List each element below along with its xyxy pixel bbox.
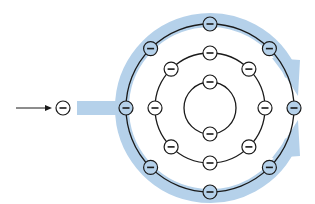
electron-outer-0 [287,101,301,115]
atom-diagram [0,0,315,204]
electron-outer-6 [203,185,217,199]
electron-outer-2 [203,17,217,31]
electron-outer-4 [119,101,133,115]
electron-outer-3 [144,42,158,56]
electron-middle-0 [258,101,272,115]
electron-outer-7 [262,160,276,174]
electrons [119,17,301,199]
flow-arrowhead-upper-icon [272,58,300,96]
electron-middle-3 [164,62,178,76]
electron-inner-0 [203,75,217,89]
electron-middle-6 [203,156,217,170]
orbit-inner [184,82,236,134]
electron-middle-7 [242,140,256,154]
flow-arrowhead-lower-icon [272,120,300,158]
electron-middle-1 [242,62,256,76]
electron-outer-5 [144,160,158,174]
flow-lower-arc [122,108,292,196]
flow-upper-arc [122,20,292,108]
electron-middle-5 [164,140,178,154]
electron-middle-2 [203,46,217,60]
electron-inner-1 [203,127,217,141]
arrow-right-icon [45,105,52,111]
incoming-electron-group [16,101,70,115]
electron-middle-4 [148,101,162,115]
electron-outer-1 [262,42,276,56]
incoming-electron [56,101,70,115]
